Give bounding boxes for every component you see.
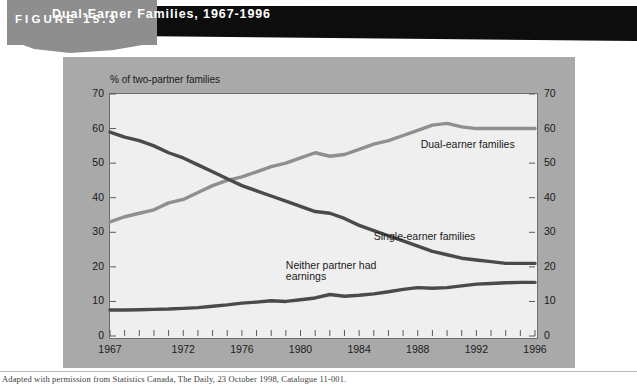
- y-axis-tick-label-right: 70: [544, 87, 568, 99]
- y-axis-tick-label-left: 20: [80, 260, 104, 272]
- series-annotation: Dual-earner families: [421, 138, 515, 150]
- x-axis-tick-label: 1980: [281, 343, 321, 355]
- source-caption: Adapted with permission from Statistics …: [2, 374, 635, 384]
- x-axis-tick-label: 1996: [515, 343, 555, 355]
- x-axis-tick-label: 1967: [90, 343, 130, 355]
- x-axis-tick-label: 1976: [222, 343, 262, 355]
- y-axis-tick-label-left: 0: [80, 329, 104, 341]
- y-axis-tick-label-left: 40: [80, 191, 104, 203]
- tick-marks-layer: [110, 94, 535, 336]
- y-axis-tick-label-left: 70: [80, 87, 104, 99]
- y-axis-tick-label-right: 30: [544, 225, 568, 237]
- y-axis-tick-label-right: 40: [544, 191, 568, 203]
- y-axis-tick-label-left: 50: [80, 156, 104, 168]
- series-line-1: [110, 132, 535, 263]
- y-axis-tick-label-right: 10: [544, 294, 568, 306]
- figure-panel: % of two-partner families 01020304050607…: [63, 57, 575, 368]
- y-axis-tick-label-right: 60: [544, 122, 568, 134]
- y-axis-tick-label-left: 10: [80, 294, 104, 306]
- x-axis-tick-label: 1984: [339, 343, 379, 355]
- tab-wave-edge: [7, 39, 157, 55]
- chart-svg: [63, 57, 575, 368]
- y-axis-tick-label-right: 50: [544, 156, 568, 168]
- y-axis-tick-label-right: 20: [544, 260, 568, 272]
- y-axis-tick-label-right: 0: [544, 329, 568, 341]
- footer-divider: [0, 371, 637, 372]
- y-axis-tick-label-left: 30: [80, 225, 104, 237]
- x-axis-tick-label: 1988: [398, 343, 438, 355]
- series-line-2: [110, 282, 535, 310]
- figure-number-label: FIGURE 15.3: [15, 13, 118, 25]
- y-axis-tick-label-left: 60: [80, 122, 104, 134]
- series-annotation: earnings: [286, 270, 326, 282]
- figure-header: Dual-Earner Families, 1967-1996 FIGURE 1…: [0, 0, 637, 52]
- x-axis-tick-label: 1992: [456, 343, 496, 355]
- series-annotation: Single-earner families: [374, 230, 476, 242]
- x-axis-tick-label: 1972: [163, 343, 203, 355]
